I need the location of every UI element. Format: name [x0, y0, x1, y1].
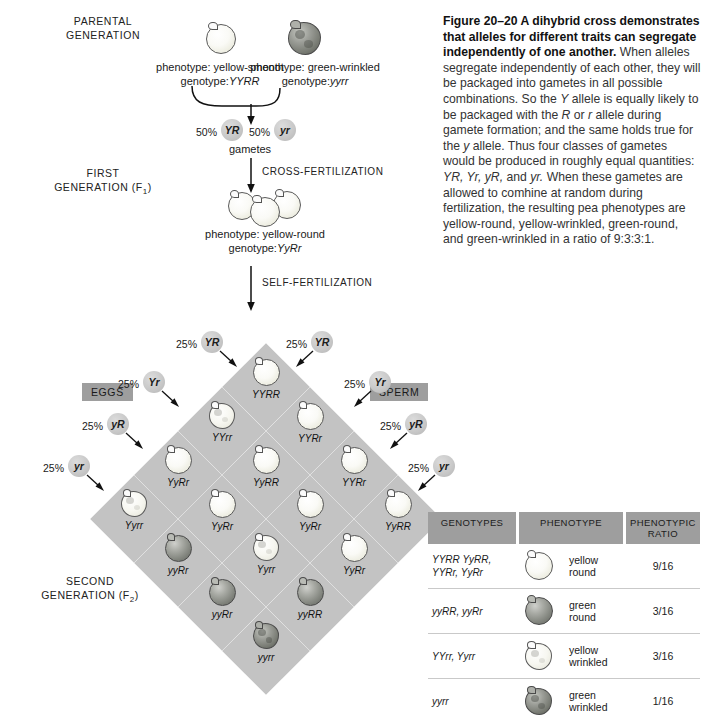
gametes-caption: gametes [200, 143, 300, 155]
first-generation-line2: GENERATION (F1) [38, 180, 168, 199]
pea-stem-icon [299, 577, 308, 585]
punnett-pea-green-round [165, 535, 192, 562]
self-fertilization-arrow [243, 266, 259, 312]
parent-pea-green-wrinkled [288, 22, 321, 55]
punnett-pea-yellow-round [341, 447, 368, 474]
header-phenotype: PHENOTYPE [519, 512, 623, 544]
parental-generation-line1: PARENTAL [38, 14, 168, 28]
phenotype-name: greenwrinkled [569, 689, 608, 714]
cross-fertilization-arrow [243, 158, 259, 194]
punnett-cell-genotype: yyRr [212, 609, 233, 620]
pea-stem-icon [343, 533, 352, 541]
punnett-cell-genotype: yyrr [258, 652, 275, 663]
pea-stem-icon [211, 489, 220, 497]
punnett-pea-yellow-round [385, 491, 412, 518]
self-fertilization-label: SELF-FERTILIZATION [262, 277, 372, 288]
table-row: yyRR, yyRrgreenround3/16 [428, 589, 700, 634]
punnett-pea-yellow-round [297, 403, 324, 430]
pea-stem-icon [299, 401, 308, 409]
cell-genotypes: YYrr, Yyrr [428, 650, 516, 663]
results-table-header: GENOTYPES PHENOTYPE PHENOTYPIC RATIO [428, 512, 700, 544]
punnett-cell-genotype: YYrr [212, 432, 232, 443]
results-table-body: YYRR YyRR,YYRr, YyRryellowround9/16yyRR,… [428, 544, 700, 723]
punnett-cell-genotype: YyRr [167, 477, 189, 488]
table-pea-green-wrinkled [525, 688, 552, 715]
punnett-pea-yellow-wrinkled [121, 491, 147, 517]
punnett-pea-yellow-round [341, 535, 368, 562]
table-pea-yellow-round [525, 552, 553, 580]
parental-generation-line2: GENERATION [38, 28, 168, 42]
pea-stem-icon [527, 595, 536, 603]
pea-stem-icon [255, 357, 264, 365]
cross-fertilization-label: CROSS-FERTILIZATION [262, 166, 383, 177]
phenotype-name: yellowwrinkled [569, 644, 608, 669]
cell-ratio: 1/16 [626, 695, 700, 707]
punnett-pea-yellow-wrinkled [209, 403, 235, 429]
punnett-pea-yellow-wrinkled [253, 535, 279, 561]
parent-right-phenotype: phenotype: green-wrinkled [215, 61, 415, 75]
parent-pea-yellow-smooth [206, 24, 236, 54]
f1-pea-center [250, 197, 280, 227]
cell-phenotype: greenwrinkled [519, 681, 623, 721]
punnett-pea-yellow-round [209, 491, 236, 518]
pea-stem-icon [387, 489, 396, 497]
cell-genotypes: YYRR YyRR,YYRr, YyRr [428, 553, 516, 579]
egg-gamete-0-pct: 25% [176, 338, 197, 350]
results-table: GENOTYPES PHENOTYPE PHENOTYPIC RATIO YYR… [428, 512, 700, 723]
first-generation-line1: FIRST [38, 166, 168, 180]
punnett-cell-genotype: YyRr [211, 521, 233, 532]
pea-stem-icon [527, 686, 536, 694]
pea-stem-icon [343, 445, 352, 453]
punnett-pea-yellow-round [297, 491, 324, 518]
pea-stem-icon [527, 641, 536, 649]
punnett-pea-yellow-round [253, 359, 280, 386]
table-pea-green-round [525, 597, 553, 625]
table-pea-yellow-wrinkled [525, 643, 552, 670]
sperm-gamete-0-badge: YR [311, 331, 333, 353]
pea-stem-icon [123, 489, 131, 496]
parental-gamete-right-badge: yr [274, 119, 296, 141]
cell-genotypes: yyrr [428, 695, 516, 708]
cell-phenotype: yellowround [519, 546, 623, 586]
pea-stem-icon [527, 550, 536, 558]
punnett-cell-genotype: yyRR [298, 609, 322, 620]
pea-stem-icon [230, 190, 239, 198]
cell-ratio: 3/16 [626, 605, 700, 617]
punnett-cell-genotype: YYRr [298, 433, 322, 444]
header-genotypes: GENOTYPES [428, 512, 516, 544]
cell-genotypes: yyRR, yyRr [428, 605, 516, 618]
punnett-pea-green-round [209, 579, 236, 606]
figure-caption: Figure 20–20 A dihybrid cross demonstrat… [443, 14, 701, 248]
cell-ratio: 3/16 [626, 650, 700, 662]
f1-labels: phenotype: yellow-round genotype:YyRr [165, 228, 365, 255]
pea-stem-icon [252, 195, 262, 203]
pea-stem-icon [255, 533, 263, 540]
pea-stem-icon [167, 445, 176, 453]
figure-dihybrid-cross: PARENTAL GENERATION FIRST GENERATION (F1… [0, 0, 713, 726]
egg-gamete-3-pct: 25% [43, 462, 64, 474]
punnett-cell-genotype: YyRr [299, 521, 321, 532]
parental-merge-arrow [180, 84, 340, 126]
parental-gamete-left-badge: YR [221, 119, 243, 141]
punnett-cell-genotype: YyRR [385, 521, 411, 532]
punnett-cell-genotype: YyRR [253, 477, 279, 488]
first-generation-label: FIRST GENERATION (F1) [38, 166, 168, 199]
punnett-cell-genotype: Yyrr [257, 564, 275, 575]
pea-stem-icon [299, 489, 308, 497]
pea-stem-icon [211, 577, 220, 585]
table-row: YYRR YyRR,YYRr, YyRryellowround9/16 [428, 544, 700, 589]
phenotype-name: greenround [569, 599, 596, 624]
punnett-cell-genotype: YYRR [252, 389, 280, 400]
punnett-pea-green-round [297, 579, 324, 606]
pea-stem-icon [255, 621, 263, 628]
pea-stem-icon [255, 445, 264, 453]
punnett-cell-genotype: yyRr [168, 565, 189, 576]
cell-phenotype: greenround [519, 591, 623, 631]
punnett-cell-genotype: Yyrr [125, 520, 143, 531]
pea-stem-icon [290, 20, 301, 29]
pea-stem-icon [211, 401, 219, 408]
f1-genotype: genotype:YyRr [165, 242, 365, 256]
punnett-pea-yellow-round [165, 447, 192, 474]
pea-stem-icon [208, 22, 218, 30]
cell-ratio: 9/16 [626, 560, 700, 572]
